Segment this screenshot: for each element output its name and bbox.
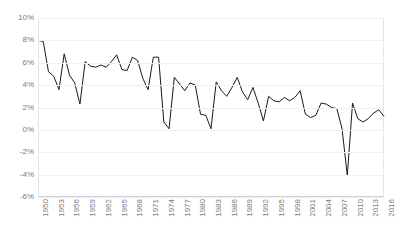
y-axis-tick-label: 6% xyxy=(2,59,34,67)
y-axis: 10%8%6%4%2%0%-2%-4%-6% xyxy=(0,18,34,197)
x-axis-tick-label: 1965 xyxy=(121,199,129,217)
gridline xyxy=(38,63,384,64)
y-axis-tick-label: 0% xyxy=(2,126,34,134)
y-axis-tick-label: 2% xyxy=(2,104,34,112)
gridline xyxy=(38,40,384,41)
gridline xyxy=(38,130,384,131)
x-axis-tick-label: 1983 xyxy=(215,199,223,217)
x-axis-tick-label: 2007 xyxy=(341,199,349,217)
x-axis-tick-label: 1998 xyxy=(294,199,302,217)
x-axis-tick-label: 1959 xyxy=(89,199,97,217)
y-axis-tick-label: 8% xyxy=(2,36,34,44)
x-axis-tick-label: 2016 xyxy=(388,199,396,217)
gridline xyxy=(38,85,384,86)
x-axis-tick-label: 2013 xyxy=(372,199,380,217)
x-axis-tick-label: 1986 xyxy=(231,199,239,217)
y-axis-tick-label: -2% xyxy=(2,148,34,156)
x-axis-tick-label: 1992 xyxy=(262,199,270,217)
x-axis-line xyxy=(38,196,384,197)
x-axis-tick-label: 1980 xyxy=(199,199,207,217)
x-axis: 1950195319561959196219651968197119741977… xyxy=(38,199,384,248)
plot-area xyxy=(38,18,384,197)
y-axis-tick-label: -4% xyxy=(2,171,34,179)
x-axis-tick-label: 1995 xyxy=(278,199,286,217)
x-axis-tick-label: 1962 xyxy=(105,199,113,217)
x-axis-tick-label: 1956 xyxy=(73,199,81,217)
gridline xyxy=(38,175,384,176)
y-axis-tick-label: 10% xyxy=(2,14,34,22)
y-axis-tick-label: -6% xyxy=(2,193,34,201)
x-axis-tick-label: 1950 xyxy=(42,199,50,217)
gridline xyxy=(38,152,384,153)
x-axis-tick-label: 1968 xyxy=(136,199,144,217)
x-axis-tick-label: 1989 xyxy=(246,199,254,217)
x-axis-tick-label: 2001 xyxy=(309,199,317,217)
x-axis-tick-label: 2010 xyxy=(357,199,365,217)
x-axis-tick-label: 1971 xyxy=(152,199,160,217)
x-axis-tick-label: 1974 xyxy=(168,199,176,217)
gdp-growth-line-chart: 10%8%6%4%2%0%-2%-4%-6% 19501953195619591… xyxy=(0,0,409,248)
gridline xyxy=(38,108,384,109)
x-axis-tick-label: 1977 xyxy=(184,199,192,217)
gridline xyxy=(38,18,384,19)
chart-title xyxy=(0,0,409,1)
x-axis-tick-label: 2004 xyxy=(325,199,333,217)
x-axis-tick-label: 1953 xyxy=(58,199,66,217)
y-axis-tick-label: 4% xyxy=(2,81,34,89)
